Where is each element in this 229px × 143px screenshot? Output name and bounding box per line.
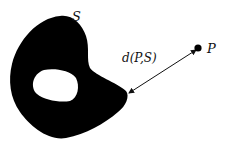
set-label: S <box>72 9 81 24</box>
point-p-dot <box>194 44 201 51</box>
set-s-shape <box>10 16 128 139</box>
distance-diagram: S P d(P,S) <box>0 0 229 143</box>
point-label: P <box>206 41 216 56</box>
distance-label: d(P,S) <box>122 51 157 65</box>
